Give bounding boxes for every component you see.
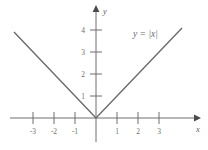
x-tick-label-pos1: 1 [115, 127, 119, 136]
absolute-value-curve [14, 28, 182, 118]
y-tick-label-4: 4 [81, 26, 85, 35]
x-tick-label-pos2: 2 [136, 127, 140, 136]
plot-canvas: -3 -2 -1 1 2 3 1 2 3 4 x y y = |x| [0, 0, 208, 150]
y-tick-label-1: 1 [81, 92, 85, 101]
y-axis-arrow-icon [93, 5, 100, 12]
y-tick-label-2: 2 [81, 70, 85, 79]
x-axis-arrow-icon [194, 115, 201, 122]
x-tick-label-neg3: -3 [30, 127, 36, 136]
x-tick-label-neg2: -2 [51, 127, 57, 136]
y-axis-label: y [102, 6, 107, 16]
absolute-value-graph-figure: -3 -2 -1 1 2 3 1 2 3 4 x y y = |x| [0, 0, 208, 150]
x-tick-label-neg1: -1 [72, 127, 78, 136]
y-tick-label-3: 3 [81, 48, 85, 57]
x-tick-label-pos3: 3 [157, 127, 161, 136]
x-axis-label: x [195, 124, 200, 134]
equation-annotation: y = |x| [132, 29, 158, 39]
